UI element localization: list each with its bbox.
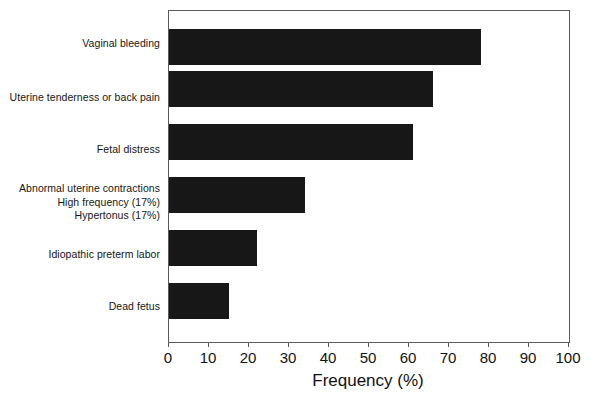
bar-idiopathic-preterm-labor [169, 230, 257, 266]
x-tick-30 [288, 342, 289, 347]
x-tick-100 [568, 342, 569, 347]
category-label-vaginal-bleeding: Vaginal bleeding [0, 37, 160, 51]
category-label-dead-fetus: Dead fetus [0, 300, 160, 314]
x-axis-title: Frequency (%) [168, 371, 568, 391]
x-tick-0 [168, 342, 169, 347]
plot-area [168, 10, 570, 343]
category-label-idiopathic-preterm-labor: Idiopathic preterm labor [0, 248, 160, 262]
bar-vaginal-bleeding [169, 29, 481, 65]
category-label-abnormal-uterine-contractions: Abnormal uterine contractions High frequ… [0, 182, 160, 223]
bar-fetal-distress [169, 124, 413, 160]
x-tick-label-100: 100 [538, 349, 590, 366]
category-label-fetal-distress: Fetal distress [0, 143, 160, 157]
category-label-uterine-tenderness-back-pain: Uterine tenderness or back pain [0, 91, 160, 105]
x-tick-10 [208, 342, 209, 347]
x-tick-20 [248, 342, 249, 347]
x-tick-40 [328, 342, 329, 347]
bar-dead-fetus [169, 283, 229, 319]
bar-abnormal-uterine-contractions [169, 177, 305, 213]
x-tick-70 [448, 342, 449, 347]
x-tick-60 [408, 342, 409, 347]
x-tick-50 [368, 342, 369, 347]
x-tick-80 [488, 342, 489, 347]
bar-chart: Vaginal bleeding Uterine tenderness or b… [0, 0, 590, 399]
bar-uterine-tenderness-back-pain [169, 71, 433, 107]
x-tick-90 [528, 342, 529, 347]
